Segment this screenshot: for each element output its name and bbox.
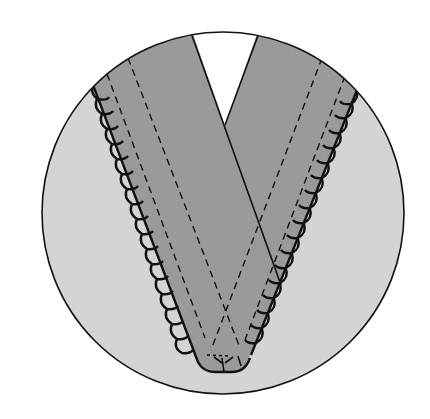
v-neck-diagram [0, 0, 430, 419]
diagram-canvas: Circular inset illustration of a V-neck … [0, 0, 430, 419]
